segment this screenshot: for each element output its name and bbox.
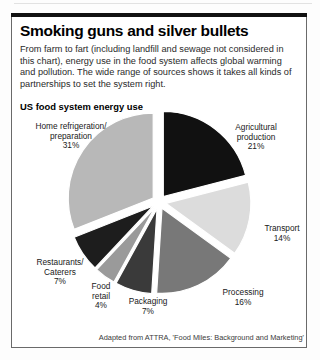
article-standfirst: From farm to fart (including landfill an…: [20, 44, 292, 90]
pie-label-home-refrigeration: Home refrigeration/ preparation 31%: [18, 122, 124, 151]
page-root: Smoking guns and silver bullets From far…: [0, 0, 320, 360]
pie-label-packaging: Packaging 7%: [117, 297, 179, 316]
pie-label-restaurants: Restaurants/ Caterers 7%: [24, 258, 96, 287]
pie-label-agricultural: Agricultural production 21%: [217, 123, 295, 152]
article-header: Smoking guns and silver bullets From far…: [20, 22, 300, 90]
source-attribution: Adapted from ATTRA, 'Food Miles: Backgro…: [20, 333, 304, 342]
panel-top-rule: [11, 13, 307, 17]
page-title: Smoking guns and silver bullets: [20, 22, 300, 39]
pie-label-transport: Transport 14%: [254, 224, 310, 243]
pie-label-processing: Processing 16%: [208, 288, 278, 307]
scan-artifact-line: [14, 3, 312, 4]
